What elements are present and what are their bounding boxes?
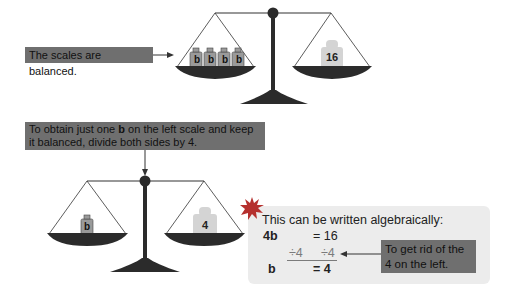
algebra-heading: This can be written algebraically: <box>262 213 443 227</box>
weight-label: b <box>218 54 232 66</box>
weight-label: b <box>190 54 204 66</box>
weight-label: b <box>232 54 246 66</box>
bottom-pivot <box>140 176 151 187</box>
eq-row3-right: = 4 <box>313 262 331 276</box>
bottom-right-pan <box>164 233 245 246</box>
eq-row1-right: = 16 <box>313 229 338 243</box>
eq-row3-left: b <box>268 262 276 276</box>
b-weight-labels: b b b b <box>190 54 246 66</box>
weight-16-label: 16 <box>321 51 343 63</box>
weight-label: b <box>204 54 218 66</box>
top-left-pan <box>175 66 256 79</box>
bottom-left-pan <box>47 233 128 246</box>
starburst-icon <box>240 197 264 221</box>
bottom-scale-base <box>110 258 180 272</box>
divide-line <box>287 260 337 261</box>
balanced-label: The scales are balanced. <box>25 47 153 63</box>
eq-row2-right: ÷4 <box>321 246 335 260</box>
single-b-label: b <box>81 221 93 232</box>
eq-row1-left: 4b <box>263 229 278 243</box>
weight-4-label: 4 <box>193 219 217 231</box>
eq-row2-left: ÷4 <box>289 246 303 260</box>
instruction-box: To obtain just one b on the left scale a… <box>25 122 265 150</box>
note-box: To get rid of the 4 on the left. <box>381 240 476 273</box>
top-scale-base <box>240 90 308 104</box>
top-right-pan <box>292 66 372 79</box>
note-arrow <box>340 250 382 258</box>
top-pivot <box>268 8 279 19</box>
